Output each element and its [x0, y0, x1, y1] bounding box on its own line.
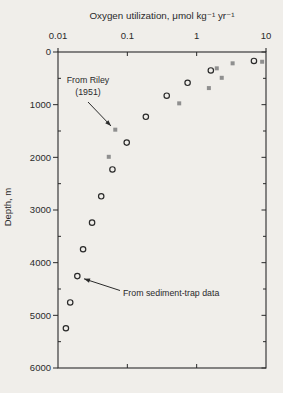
data-point-square — [220, 76, 224, 80]
chart-svg: 0.010.11100100020003000400050006000 — [0, 0, 283, 393]
data-point-square — [177, 101, 181, 105]
data-point-circle — [251, 58, 256, 63]
data-point-square — [113, 128, 117, 132]
data-point-circle — [185, 80, 190, 85]
y-tick-label: 2000 — [30, 152, 51, 163]
data-point-circle — [99, 194, 104, 199]
data-point-circle — [68, 300, 73, 305]
y-tick-label: 0 — [46, 46, 51, 57]
data-point-square — [107, 155, 111, 159]
plot-frame — [58, 52, 266, 368]
sediment-annotation-label: From sediment-trap data — [123, 288, 219, 299]
data-point-circle — [63, 326, 68, 331]
data-point-circle — [75, 273, 80, 278]
data-point-square — [260, 60, 264, 64]
data-point-circle — [80, 247, 85, 252]
x-tick-label: 10 — [261, 30, 272, 41]
data-point-square — [207, 86, 211, 90]
x-tick-label: 1 — [194, 30, 199, 41]
sediment-annotation-arrow-head — [84, 279, 90, 283]
y-tick-label: 6000 — [30, 362, 51, 373]
riley-annotation-line1: From Riley — [46, 75, 130, 87]
riley-annotation-label: From Riley (1951) — [46, 75, 130, 98]
figure: Oxygen utilization, μmol kg⁻¹ yr⁻¹ Depth… — [0, 0, 283, 393]
data-point-circle — [208, 68, 213, 73]
data-point-square — [231, 61, 235, 65]
data-point-circle — [124, 140, 129, 145]
y-tick-label: 1000 — [30, 99, 51, 110]
data-point-circle — [110, 167, 115, 172]
x-tick-label: 0.01 — [49, 30, 68, 41]
data-point-circle — [89, 220, 94, 225]
x-tick-label: 0.1 — [121, 30, 134, 41]
data-point-circle — [164, 93, 169, 98]
y-tick-label: 5000 — [30, 310, 51, 321]
y-tick-label: 4000 — [30, 257, 51, 268]
riley-annotation-line2: (1951) — [46, 87, 130, 99]
data-point-circle — [143, 114, 148, 119]
data-point-square — [215, 66, 219, 70]
y-tick-label: 3000 — [30, 204, 51, 215]
